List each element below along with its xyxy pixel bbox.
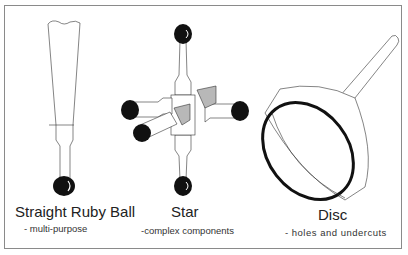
- disc-probe-icon: [244, 35, 399, 217]
- straight-ruby-ball-probe-icon: [48, 21, 80, 196]
- probe-title-star: Star: [171, 203, 199, 220]
- probe-title-disc: Disc: [318, 206, 347, 223]
- star-probe-icon: [121, 24, 249, 196]
- probe-title-straight-ruby-ball: Straight Ruby Ball: [15, 203, 135, 220]
- probe-description-star: -complex components: [141, 225, 234, 236]
- probe-description-disc: - holes and undercuts: [285, 227, 387, 238]
- probe-description-straight-ruby-ball: - multi-purpose: [24, 223, 87, 234]
